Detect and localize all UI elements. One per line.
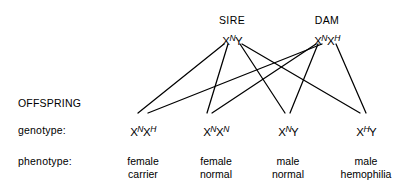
inheritance-line xyxy=(336,44,366,113)
inheritance-line xyxy=(138,44,224,113)
phenotype-line: hemophilia xyxy=(341,168,392,181)
offspring-genotype-3: XNY xyxy=(278,124,297,138)
phenotype-line: male xyxy=(341,155,392,168)
allele-superscript: H xyxy=(150,124,156,134)
phenotype-line: carrier xyxy=(127,168,159,181)
offspring-genotype-4: XHY xyxy=(356,124,375,138)
allele-superscript: N xyxy=(223,124,229,134)
allele-base: Y xyxy=(235,35,243,47)
allele-base: Y xyxy=(369,126,377,138)
offspring-phenotype-3: male normal xyxy=(272,155,304,180)
phenotype-line: normal xyxy=(272,168,304,181)
inheritance-line xyxy=(242,44,360,113)
parent-title-sire: SIRE xyxy=(219,14,245,26)
inheritance-line xyxy=(207,44,228,113)
row-label-phenotype: phenotype: xyxy=(18,155,72,167)
inheritance-line xyxy=(212,44,316,113)
offspring-genotype-1: XNXH xyxy=(130,124,156,138)
row-label-offspring: OFFSPRING xyxy=(18,97,81,109)
offspring-genotype-2: XNXN xyxy=(203,124,229,138)
parent-genotype-sire: XNY xyxy=(222,33,241,47)
line-group xyxy=(138,44,366,113)
genetics-cross-diagram: SIRE DAM XNY XNXH OFFSPRING genotype: ph… xyxy=(0,0,412,193)
offspring-phenotype-1: female carrier xyxy=(127,155,159,180)
offspring-phenotype-4: male hemophilia xyxy=(341,155,392,180)
offspring-phenotype-2: female normal xyxy=(200,155,232,180)
parent-genotype-dam: XNXH xyxy=(314,33,340,47)
row-label-genotype: genotype: xyxy=(18,124,66,136)
phenotype-line: female xyxy=(127,155,159,168)
phenotype-line: male xyxy=(272,155,304,168)
phenotype-line: normal xyxy=(200,168,232,181)
parent-title-dam: DAM xyxy=(315,14,340,26)
inheritance-line xyxy=(240,44,285,113)
inheritance-line xyxy=(148,44,322,113)
allele-base: Y xyxy=(291,126,299,138)
allele-superscript: H xyxy=(334,33,340,43)
inheritance-line xyxy=(290,44,318,113)
phenotype-line: female xyxy=(200,155,232,168)
